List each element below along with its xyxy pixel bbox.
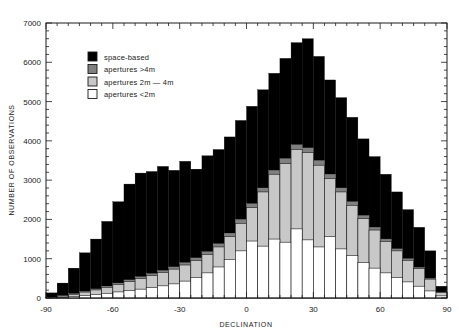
histogram-bar (347, 256, 358, 298)
y-tick-label: 2000 (23, 215, 41, 224)
legend-label: apertures 2m — 4m (104, 78, 174, 87)
histogram-bar (414, 286, 425, 298)
y-tick-label: 5000 (23, 98, 41, 107)
histogram-bar (68, 268, 79, 298)
x-tick-label: -30 (174, 305, 186, 314)
legend-swatch (88, 77, 97, 86)
histogram-bar (402, 282, 413, 298)
histogram-bar (280, 242, 291, 298)
histogram-bar (425, 291, 436, 298)
histogram-bar (169, 284, 180, 298)
x-tick-label: -60 (107, 305, 119, 314)
legend-swatch (88, 65, 97, 74)
histogram-bar (313, 247, 324, 298)
histogram-bar (391, 278, 402, 298)
y-tick-label: 6000 (23, 58, 41, 67)
histogram-chart: -90-60-300306090010002000300040005000600… (0, 0, 459, 335)
histogram-bar (224, 260, 235, 299)
histogram-bar (146, 288, 157, 298)
histogram-bar (102, 293, 113, 298)
x-tick-label: 60 (376, 305, 385, 314)
legend-label: apertures >4m (104, 65, 155, 74)
histogram-bar (213, 267, 224, 298)
histogram-bar (124, 291, 135, 298)
histogram-bar (180, 281, 191, 298)
y-tick-label: 0 (37, 294, 42, 303)
histogram-bar (258, 246, 269, 298)
legend-swatch (88, 90, 97, 99)
histogram-bar (202, 273, 213, 298)
y-axis-title: NUMBER OF OBSERVATIONS (8, 104, 15, 215)
legend-label: apertures <2m (104, 90, 155, 99)
legend-swatch (88, 52, 97, 61)
histogram-bar (336, 249, 347, 298)
histogram-bar (235, 251, 246, 298)
histogram-bar (191, 278, 202, 298)
y-tick-label: 7000 (23, 19, 41, 28)
x-tick-label: -90 (40, 305, 52, 314)
histogram-bar (291, 229, 302, 298)
x-tick-label: 90 (443, 305, 452, 314)
x-axis-title: DECLINATION (219, 321, 272, 328)
histogram-bar (269, 239, 280, 298)
chart-figure: -90-60-300306090010002000300040005000600… (0, 0, 459, 335)
histogram-bar (302, 240, 313, 298)
y-tick-label: 4000 (23, 137, 41, 146)
y-tick-label: 1000 (23, 255, 41, 264)
histogram-bar (135, 289, 146, 298)
histogram-bar (380, 273, 391, 298)
y-tick-label: 3000 (23, 176, 41, 185)
histogram-bar (91, 294, 102, 298)
legend-label: space-based (104, 53, 149, 62)
histogram-bar (247, 241, 258, 298)
histogram-bar (369, 268, 380, 298)
x-tick-label: 0 (244, 305, 249, 314)
histogram-bar (157, 286, 168, 298)
histogram-bar (358, 263, 369, 298)
x-tick-label: 30 (309, 305, 318, 314)
histogram-bar (324, 237, 335, 298)
histogram-bar (113, 292, 124, 298)
